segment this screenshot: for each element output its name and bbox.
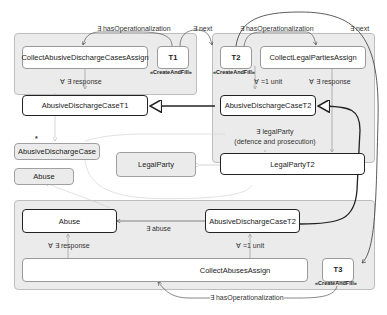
edge-label-has-operationalization-t1: ∃ hasOperationalization bbox=[97, 25, 171, 33]
edge-label-abuse: ∃ abuse bbox=[146, 225, 171, 233]
node-abusive-discharge-case-t2-t3[interactable]: AbusiveDischargeCaseT2 bbox=[205, 209, 300, 233]
node-abusive-discharge-case-t2[interactable]: AbusiveDischargeCaseT2 bbox=[220, 95, 316, 116]
container-t3-label: T3 bbox=[334, 265, 343, 274]
node-legal-party-t2[interactable]: LegalPartyT2 bbox=[220, 153, 365, 175]
node-collect-abusive-discharge-cases-assign[interactable]: CollectAbusiveDischargeCasesAssign bbox=[22, 46, 148, 69]
edge-label-response-t3: ∀ ∃ response bbox=[48, 242, 90, 250]
edge-label-has-operationalization-t2: ∃ hasOperationalization bbox=[240, 25, 314, 33]
node-collect-legal-parties-assign[interactable]: CollectLegalPartiesAssign bbox=[260, 46, 366, 69]
edge-label-legal-party: ∃ legalParty (defence and prosecution) bbox=[225, 127, 325, 147]
edge-label-legal-party-line1: ∃ legalParty bbox=[225, 127, 325, 137]
multiplicity-star: * bbox=[35, 135, 38, 142]
edge-label-legal-party-line2: (defence and prosecution) bbox=[225, 137, 325, 147]
container-t3-stereotype: «CreateAndFill» bbox=[315, 280, 357, 286]
edge-label-next-t1-t2: ∃ next bbox=[193, 25, 212, 33]
container-t1-label: T1 bbox=[169, 53, 178, 62]
node-abuse-class[interactable]: Abuse bbox=[14, 168, 74, 185]
container-t1-badge[interactable]: T1 bbox=[157, 46, 189, 69]
node-abusive-discharge-case-t1[interactable]: AbusiveDischargeCaseT1 bbox=[22, 95, 148, 116]
node-legal-party[interactable]: LegalParty bbox=[116, 152, 196, 177]
container-t2-badge[interactable]: T2 bbox=[220, 46, 252, 69]
node-abusive-discharge-case[interactable]: AbusiveDischargeCase bbox=[14, 143, 100, 160]
edge-label-response-t2: ∀ ∃ response bbox=[309, 78, 351, 86]
container-t2-stereotype: «CreateAndFill» bbox=[213, 69, 255, 75]
edge-label-next-t2-t3: ∃ next bbox=[350, 25, 369, 33]
container-t3-badge[interactable]: T3 bbox=[322, 258, 354, 282]
edge-label-has-operationalization-t3: ∃ hasOperationalization bbox=[210, 294, 284, 302]
edge-label-unit-t2: ∀ =1 unit bbox=[254, 78, 282, 86]
node-abuse-t3[interactable]: Abuse bbox=[22, 209, 117, 233]
edge-label-unit-t3: ∀ =1 unit bbox=[236, 242, 264, 250]
container-t1-stereotype: «CreateAndFill» bbox=[150, 69, 192, 75]
node-collect-abuses-assign[interactable]: CollectAbusesAssign bbox=[22, 258, 308, 282]
edge-label-response-t1: ∀ ∃ response bbox=[60, 78, 102, 86]
container-t2-label: T2 bbox=[232, 53, 241, 62]
